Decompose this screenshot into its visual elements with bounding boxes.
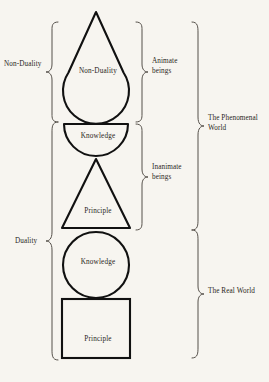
brace-label-non-duality: Non-Duality xyxy=(4,60,41,70)
brace-label-duality: Duality xyxy=(15,237,37,247)
brace-label-animate-beings: Animate beings xyxy=(152,57,177,76)
shape-label-teardrop: Non-Duality xyxy=(48,68,148,75)
triangle-shape-outline xyxy=(62,159,130,228)
shape-label-triangle: Principle xyxy=(48,208,148,215)
brace-label-inanimate-beings: Inanimate beings xyxy=(152,163,182,182)
shape-label-square: Principle xyxy=(48,336,148,343)
brace-real-world xyxy=(190,228,206,362)
brace-phenomenal-world xyxy=(190,20,206,232)
shape-label-circle: Knowledge xyxy=(48,259,148,266)
brace-label-real-world: The Real World xyxy=(208,287,255,297)
square-shape-outline xyxy=(62,299,130,358)
shape-label-half-disc: Knowledge xyxy=(48,133,148,140)
brace-duality xyxy=(44,120,60,362)
brace-label-phenomenal-world: The Phenomenal World xyxy=(208,114,258,133)
diagram-canvas: Non-Duality Knowledge Principle Knowledg… xyxy=(0,0,269,382)
